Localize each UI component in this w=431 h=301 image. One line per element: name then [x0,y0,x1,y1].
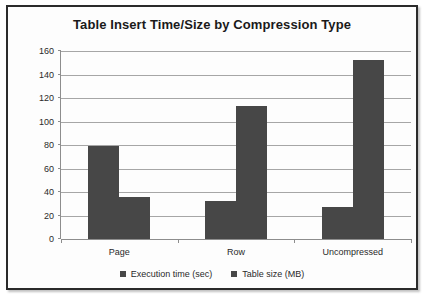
legend-entry[interactable]: Execution time (sec) [120,269,213,279]
legend-entry[interactable]: Table size (MB) [231,269,304,279]
plot-area: 020406080100120140160 PageRowUncompresse… [60,51,411,239]
y-axis-tick-label: 40 [44,187,54,197]
bar-group [61,51,178,239]
y-axis-tick-label: 0 [49,234,54,244]
y-axis-tick-label: 20 [44,211,54,221]
legend-swatch-icon [120,271,126,277]
y-axis-tick-label: 160 [39,46,54,56]
bar[interactable] [119,197,150,239]
legend-swatch-icon [231,271,237,277]
y-axis-tick-label: 80 [44,140,54,150]
bar[interactable] [353,60,384,239]
bar[interactable] [322,207,353,239]
x-axis-tick-mark [294,239,295,243]
y-axis-tick-label: 120 [39,93,54,103]
bar-group [294,51,411,239]
y-axis-tick-label: 140 [39,70,54,80]
bar[interactable] [236,106,267,239]
legend-label: Table size (MB) [242,269,304,279]
y-axis-tick-label: 100 [39,117,54,127]
chart-frame: Table Insert Time/Size by Compression Ty… [6,5,418,290]
x-axis-tick-label: Row [178,247,295,257]
y-axis-tick-label: 60 [44,164,54,174]
chart-legend: Execution time (sec)Table size (MB) [8,269,416,279]
bar[interactable] [88,146,119,239]
x-axis-tick-mark [61,239,62,243]
x-axis-tick-label: Page [61,247,178,257]
x-axis-tick-mark [178,239,179,243]
legend-label: Execution time (sec) [131,269,213,279]
gridline [61,239,411,240]
bars-layer [61,51,411,239]
x-axis-tick-mark [411,239,412,243]
chart-title: Table Insert Time/Size by Compression Ty… [8,17,416,32]
bar[interactable] [205,201,236,239]
x-axis-tick-label: Uncompressed [294,247,411,257]
bar-group [178,51,295,239]
